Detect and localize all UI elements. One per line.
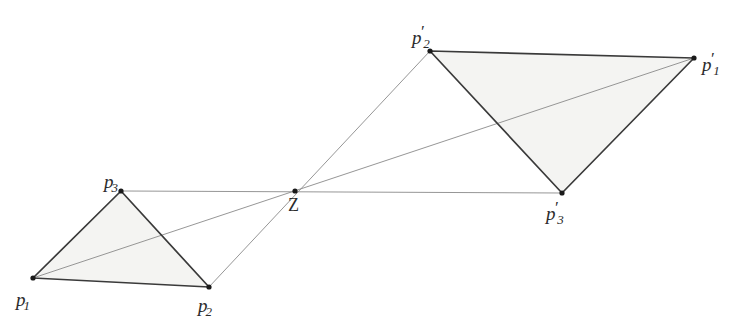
- vertex-dot-p2: [206, 284, 211, 289]
- label-p3-sub: 3: [112, 180, 119, 195]
- vertex-dot-p3: [118, 188, 123, 193]
- ray-p2: [209, 51, 430, 287]
- label-p2p-sub: 2: [423, 36, 430, 51]
- vertex-dot-p1p: [691, 55, 696, 60]
- projection-figure: p1 p2 p3 Z p′1 p′2 p′3: [0, 0, 737, 319]
- label-p1-prime-point: p′1: [702, 50, 720, 77]
- label-p3p-sub: 3: [557, 212, 564, 227]
- ray-p1: [33, 58, 694, 278]
- label-z: Z: [288, 196, 299, 214]
- triangle-fills-group: [33, 51, 694, 287]
- vertex-dot-z: [292, 188, 297, 193]
- label-p2-prime-point: p′2: [412, 23, 430, 50]
- source-triangle-fill: [33, 191, 209, 287]
- label-p1-sub: 1: [24, 298, 31, 313]
- label-p3: p3: [104, 167, 118, 194]
- label-p2-sub: 2: [206, 304, 213, 319]
- label-p3-prime-point: p′3: [546, 199, 564, 226]
- vertex-dot-p1: [30, 275, 35, 280]
- ray-p3: [121, 191, 562, 193]
- image-triangle-fill: [430, 51, 694, 193]
- figure-canvas: [0, 0, 737, 319]
- label-p2: p2: [198, 291, 212, 318]
- label-p1: p1: [16, 285, 30, 312]
- vertex-dot-p3p: [559, 190, 564, 195]
- label-p1p-sub: 1: [713, 63, 720, 78]
